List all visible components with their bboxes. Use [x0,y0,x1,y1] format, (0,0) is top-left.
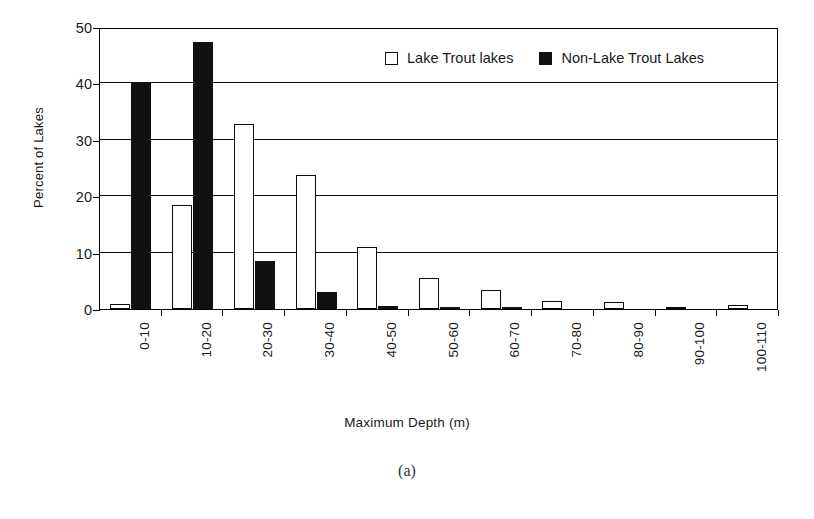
x-tick-mark [716,310,717,316]
bar-group [532,29,594,309]
open-square-icon [385,52,398,65]
x-tick-mark [593,310,594,316]
legend-label: Non-Lake Trout Lakes [561,50,704,66]
bar-group [223,29,285,309]
bar-lake-trout [666,307,686,309]
y-tick-label-40: 40 [32,77,92,92]
y-tick-label-10: 10 [32,246,92,261]
figure-panel-a: Percent of Lakes 01020304050 0-1010-2020… [0,0,814,519]
x-axis-label-80-90: 80-90 [631,322,646,408]
x-axis-label-10-20: 10-20 [199,322,214,408]
y-tick-mark-0 [93,310,100,311]
x-tick-mark [469,310,470,316]
legend-entry: Non-Lake Trout Lakes [539,50,704,66]
bar-group [594,29,656,309]
x-axis-title: Maximum Depth (m) [0,415,814,430]
x-axis-label-0-10: 0-10 [137,322,152,408]
bar-lake-trout [234,124,254,309]
bar-lake-trout [604,302,624,309]
y-axis-title: Percent of Lakes [31,78,46,238]
bar-non-lake-trout [502,307,522,309]
bar-lake-trout [357,247,377,309]
bar-group [409,29,471,309]
x-tick-mark [161,310,162,316]
bar-lake-trout [728,305,748,309]
bar-group [100,29,162,309]
bar-non-lake-trout [193,42,213,309]
bar-lake-trout [172,205,192,309]
bar-group [656,29,718,309]
x-tick-mark [778,310,779,316]
chart-legend: Lake Trout lakesNon-Lake Trout Lakes [385,50,704,66]
filled-square-icon [539,52,552,65]
x-tick-mark [222,310,223,316]
bar-non-lake-trout [131,82,151,309]
x-tick-mark [408,310,409,316]
bar-lake-trout [542,301,562,309]
bar-lake-trout [419,278,439,309]
bar-lake-trout [296,175,316,309]
x-tick-mark [655,310,656,316]
y-tick-label-20: 20 [32,190,92,205]
x-axis-label-60-70: 60-70 [507,322,522,408]
x-axis-label-50-60: 50-60 [446,322,461,408]
figure-caption: (a) [0,462,814,480]
bar-group [162,29,224,309]
bars-layer [100,29,777,309]
x-axis-label-40-50: 40-50 [384,322,399,408]
x-tick-mark [531,310,532,316]
x-axis-label-100-110: 100-110 [754,322,769,408]
bar-lake-trout [481,290,501,309]
x-axis-label-30-40: 30-40 [322,322,337,408]
bar-non-lake-trout [255,261,275,309]
bar-lake-trout [110,304,130,309]
legend-entry: Lake Trout lakes [385,50,513,66]
y-tick-label-0: 0 [32,303,92,318]
y-tick-label-50: 50 [32,21,92,36]
bar-group [347,29,409,309]
bar-non-lake-trout [440,307,460,309]
legend-label: Lake Trout lakes [407,50,513,66]
bar-group [285,29,347,309]
y-tick-label-30: 30 [32,134,92,149]
x-tick-mark [346,310,347,316]
x-tick-mark [284,310,285,316]
x-axis-label-20-30: 20-30 [260,322,275,408]
bar-non-lake-trout [317,292,337,309]
x-axis-label-70-80: 70-80 [569,322,584,408]
bar-group [470,29,532,309]
x-axis-label-90-100: 90-100 [692,322,707,408]
plot-area [99,28,778,310]
bar-non-lake-trout [378,306,398,309]
bar-group [717,29,779,309]
